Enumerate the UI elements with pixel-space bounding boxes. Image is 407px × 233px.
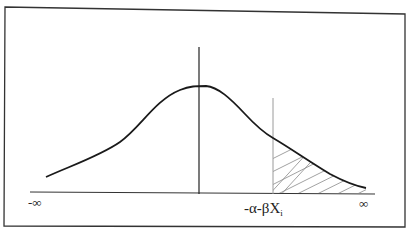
neg-infinity-label: -∞ [28,195,42,210]
threshold-label: -α-βXi [244,200,283,218]
threshold-label-subscript: i [280,208,283,218]
pos-infinity-label: ∞ [359,196,368,211]
threshold-label-main: -α-βX [244,200,280,216]
density-diagram: -∞ -α-βXi ∞ [0,0,407,233]
x-axis [30,192,375,194]
density-curve [46,86,366,188]
